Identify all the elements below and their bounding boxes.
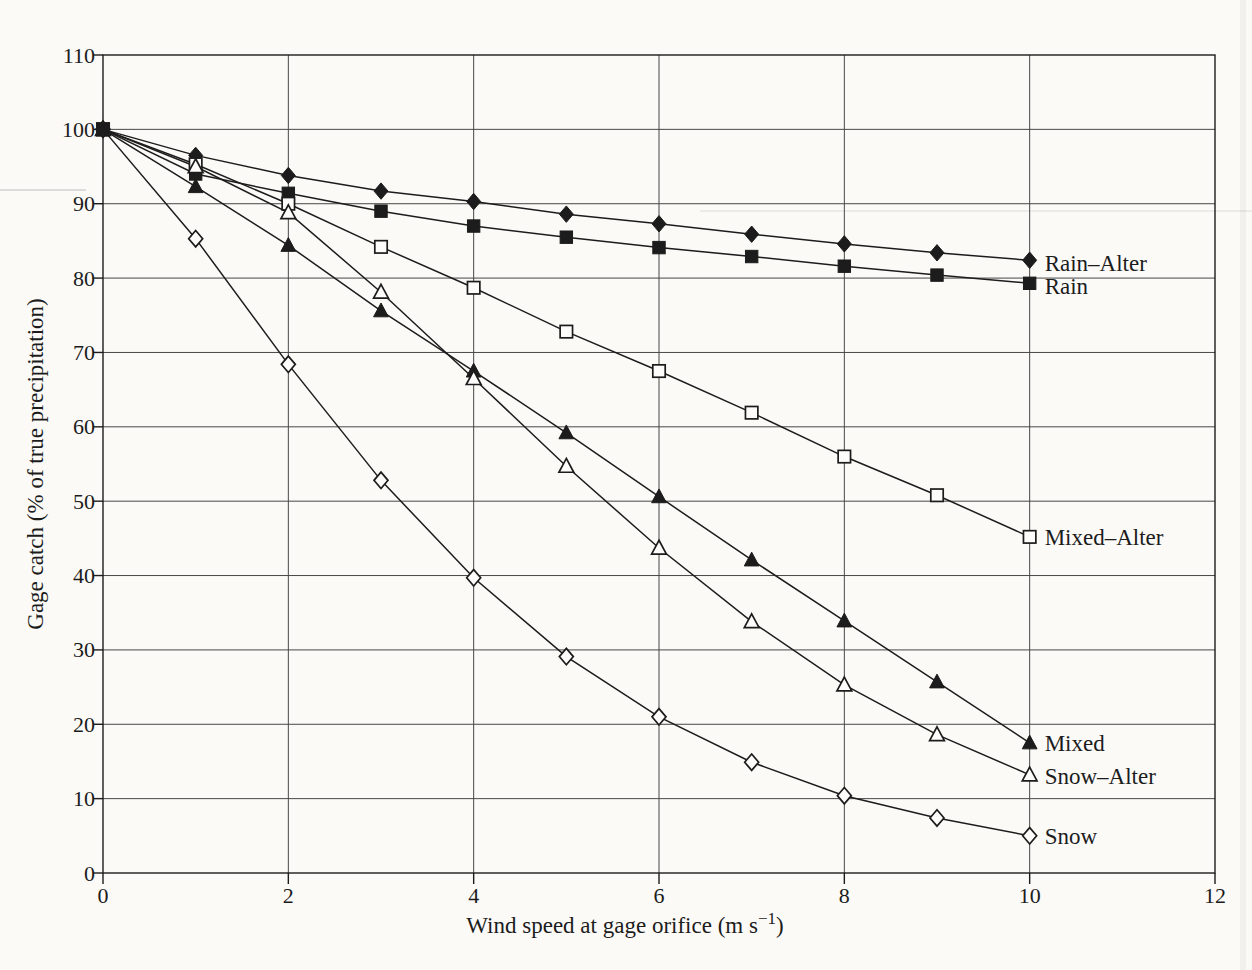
- y-tick-label: 0: [84, 861, 95, 886]
- series-marker-mixed-alter: [745, 406, 757, 418]
- series-marker-mixed: [374, 303, 389, 317]
- series-marker-rain-alter: [1023, 252, 1037, 268]
- series-line-snow-alter: [103, 129, 1030, 774]
- series-marker-mixed-alter: [560, 325, 572, 337]
- series-marker-mixed: [652, 489, 667, 503]
- series-labels: Rain–AlterRainMixed–AlterMixedSnow–Alter…: [1045, 251, 1164, 849]
- y-tick-label: 20: [73, 712, 95, 737]
- series-marker-snow-alter: [1022, 767, 1037, 781]
- gage-catch-chart-svg: 0246810120102030405060708090100110 Rain–…: [0, 0, 1252, 970]
- x-tick-label: 10: [1019, 883, 1041, 908]
- origin-cluster-marker: [97, 123, 110, 136]
- y-tick-label: 40: [73, 563, 95, 588]
- series-marker-mixed-alter: [375, 241, 387, 253]
- series-marker-rain-alter: [745, 226, 759, 242]
- series-marker-rain-alter: [374, 183, 388, 199]
- series-markers: [96, 121, 1037, 844]
- series-marker-rain-alter: [652, 216, 666, 232]
- series-marker-rain: [467, 220, 479, 232]
- series-marker-snow: [652, 709, 666, 725]
- series-label-mixed-alter: Mixed–Alter: [1045, 525, 1164, 550]
- series-marker-mixed-alter: [1023, 531, 1035, 543]
- y-tick-label: 60: [73, 414, 95, 439]
- series-marker-snow-alter: [374, 284, 389, 298]
- y-axis-title: Gage catch (% of true precipitation): [23, 298, 48, 629]
- y-tick-label: 110: [63, 43, 95, 68]
- series-marker-snow: [1023, 828, 1037, 844]
- series-label-snow: Snow: [1045, 824, 1098, 849]
- series-marker-rain: [653, 241, 665, 253]
- x-tick-label: 6: [654, 883, 665, 908]
- series-marker-mixed-alter: [931, 489, 943, 501]
- series-marker-rain: [745, 250, 757, 262]
- series-marker-rain-alter: [467, 193, 481, 209]
- series-marker-mixed: [930, 674, 945, 688]
- scan-edge-band: [1240, 0, 1246, 970]
- series-marker-mixed-alter: [653, 365, 665, 377]
- series-marker-mixed: [1022, 735, 1037, 749]
- series-marker-rain-alter: [281, 167, 295, 183]
- series-marker-snow: [745, 754, 759, 770]
- y-tick-label: 80: [73, 266, 95, 291]
- y-tick-label: 30: [73, 637, 95, 662]
- series-marker-snow: [837, 787, 851, 803]
- series-marker-mixed-alter: [467, 282, 479, 294]
- series-marker-rain-alter: [837, 236, 851, 252]
- series-marker-rain-alter: [559, 206, 573, 222]
- series-marker-snow-alter: [837, 677, 852, 691]
- series-marker-rain: [838, 260, 850, 272]
- series-label-rain-alter: Rain–Alter: [1045, 251, 1148, 276]
- series-marker-mixed: [188, 179, 203, 193]
- y-tick-label: 90: [73, 191, 95, 216]
- y-tick-label: 50: [73, 489, 95, 514]
- series-marker-rain: [1023, 277, 1035, 289]
- series-label-mixed: Mixed: [1045, 731, 1106, 756]
- series-marker-mixed: [281, 238, 296, 252]
- series-marker-mixed-alter: [838, 450, 850, 462]
- series-label-snow-alter: Snow–Alter: [1045, 764, 1157, 789]
- series-marker-mixed: [837, 613, 852, 627]
- series-marker-rain: [931, 269, 943, 281]
- series-marker-rain: [375, 205, 387, 217]
- series-label-rain: Rain: [1045, 274, 1089, 299]
- series-marker-snow-alter: [652, 540, 667, 554]
- x-tick-label: 0: [98, 883, 109, 908]
- series-marker-snow: [930, 810, 944, 826]
- axis-titles: Gage catch (% of true precipitation) Win…: [23, 298, 784, 938]
- y-tick-label: 70: [73, 340, 95, 365]
- series-marker-rain: [560, 231, 572, 243]
- series-marker-snow: [559, 648, 573, 664]
- gage-catch-figure: 0246810120102030405060708090100110 Rain–…: [0, 0, 1252, 970]
- axis-ticks: [93, 55, 1215, 884]
- x-tick-label: 8: [839, 883, 850, 908]
- series-marker-snow-alter: [744, 614, 759, 628]
- series-marker-rain-alter: [930, 245, 944, 261]
- x-tick-label: 2: [283, 883, 294, 908]
- y-tick-label: 10: [73, 786, 95, 811]
- x-tick-label: 4: [468, 883, 479, 908]
- y-tick-label: 100: [62, 117, 95, 142]
- series-marker-mixed: [744, 552, 759, 566]
- x-axis-title: Wind speed at gage orifice (m s−1): [466, 909, 783, 938]
- x-tick-label: 12: [1204, 883, 1226, 908]
- series-marker-snow-alter: [930, 727, 945, 741]
